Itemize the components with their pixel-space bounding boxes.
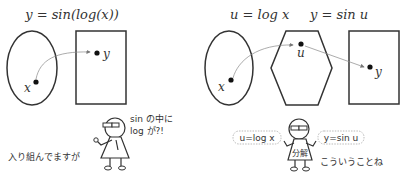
right-title-u: u = log x [230, 7, 290, 22]
codomain-rect [349, 31, 399, 104]
speech-line-1: sin の中に [130, 113, 173, 124]
mapping-arrow-2 [305, 46, 364, 67]
confused-character [94, 118, 129, 170]
label-y: y [374, 65, 382, 79]
point-y [94, 50, 99, 55]
left-panel: y = sin(log(x)) x y sin の中に log が?! 入り組ん… [7, 7, 173, 170]
codomain-rect [76, 31, 126, 104]
decomposing-character: 分解 [284, 119, 316, 171]
domain-ellipse [205, 31, 253, 105]
speech-line-2: log が?! [130, 125, 164, 136]
point-x [228, 77, 233, 82]
label-y: y [102, 47, 110, 61]
point-x [33, 79, 38, 84]
label-u: u [297, 46, 305, 60]
label-x: x [218, 80, 225, 94]
right-caption: こういうことね [320, 157, 383, 167]
point-y [367, 64, 372, 69]
left-caption: 入り組んでますが [8, 151, 80, 162]
left-title: y = sin(log(x)) [24, 7, 119, 22]
domain-ellipse [7, 31, 57, 105]
composite-function-diagram: y = sin(log(x)) x y sin の中に log が?! 入り組ん… [0, 0, 404, 183]
left-bubble-text: u=log x [239, 133, 275, 143]
right-title-y: y = sin u [309, 7, 368, 22]
label-x: x [24, 81, 31, 95]
mapping-arrow [36, 52, 90, 79]
shirt-text: 分解 [292, 148, 308, 158]
right-panel: u = log x y = sin u x u y 分解 u=log x [205, 7, 399, 171]
right-bubble-text: y=sin u [324, 133, 358, 143]
mapping-arrow-1 [233, 45, 293, 78]
